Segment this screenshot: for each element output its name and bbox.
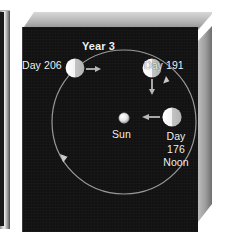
planet-day-176 (162, 107, 181, 126)
label-day-176: Day 176 Noon (154, 130, 198, 169)
orbit-direction-marker-upper-right (163, 76, 169, 84)
motion-arrow-day-176-head (142, 114, 149, 120)
motion-arrow-day-206-head (95, 66, 101, 72)
label-day-191: Day 191 (144, 59, 184, 71)
label-day-206: Day 206 (22, 59, 62, 71)
diagram-title: Year 3 (82, 40, 115, 52)
label-sun: Sun (112, 128, 131, 140)
label-day-176-line3: Noon (154, 156, 198, 169)
motion-arrow-day-191-head (149, 89, 155, 95)
diagram-panel: Year 3 Day 206 Day 191 Sun Day 176 Noon (22, 27, 198, 232)
label-day-176-line2: 176 (154, 143, 198, 156)
label-day-176-line1: Day (154, 130, 198, 143)
adjacent-panel-face (0, 12, 4, 226)
panel-right-bevel (198, 26, 212, 222)
planet-day-206 (66, 59, 85, 78)
diagram-scene: Year 3 Day 206 Day 191 Sun Day 176 Noon (0, 0, 228, 240)
